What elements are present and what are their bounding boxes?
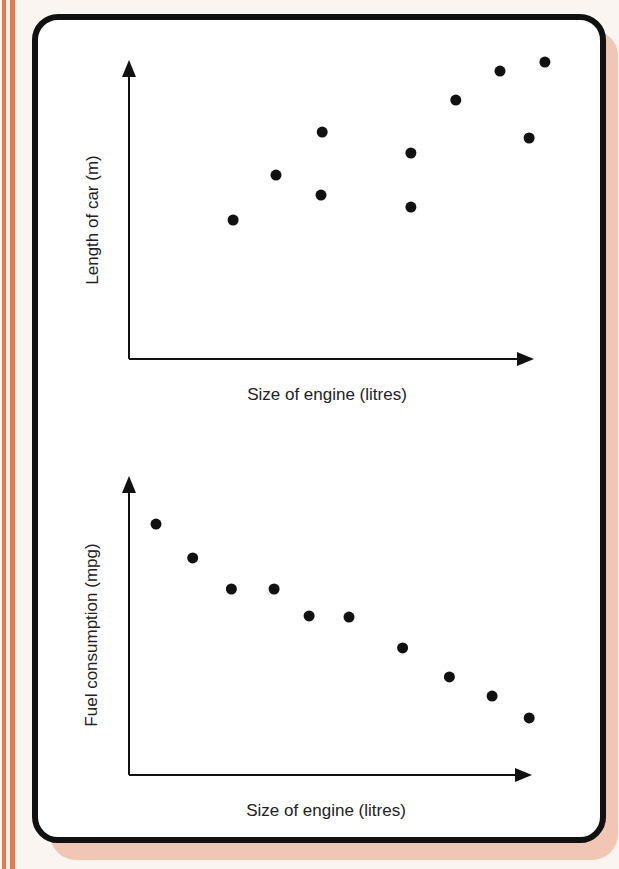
y-axis-label: Length of car (m): [83, 155, 102, 284]
data-point: [269, 584, 280, 595]
x-axis-label: Size of engine (litres): [246, 801, 406, 820]
data-points: [228, 57, 551, 226]
plot-axes: [122, 60, 534, 366]
y-axis-arrow-icon: [122, 476, 136, 493]
y-axis-label: Fuel consumption (mpg): [82, 543, 101, 726]
data-point: [317, 127, 328, 138]
data-point: [524, 712, 535, 723]
scatter-plot-length-vs-engine: Size of engine (litres) Length of car (m…: [83, 57, 550, 404]
data-point: [450, 95, 461, 106]
data-point: [524, 133, 535, 144]
data-point: [226, 584, 237, 595]
x-axis-arrow-icon: [515, 768, 532, 782]
y-axis-arrow-icon: [122, 60, 136, 77]
data-point: [271, 170, 282, 181]
data-point: [487, 691, 498, 702]
scatter-plots: Size of engine (litres) Length of car (m…: [0, 0, 619, 869]
data-point: [539, 57, 550, 68]
data-point: [151, 519, 162, 530]
data-point: [304, 610, 315, 621]
data-point: [444, 671, 455, 682]
data-point: [187, 552, 198, 563]
data-point: [316, 190, 327, 201]
data-point: [228, 215, 239, 226]
data-points: [151, 519, 535, 724]
plot-axes: [122, 476, 532, 782]
x-axis-label: Size of engine (litres): [247, 385, 407, 404]
data-point: [495, 66, 506, 77]
data-point: [405, 202, 416, 213]
scatter-plot-fuel-vs-engine: Size of engine (litres) Fuel consumption…: [82, 476, 535, 820]
x-axis-arrow-icon: [517, 352, 534, 366]
data-point: [405, 148, 416, 159]
data-point: [344, 612, 355, 623]
data-point: [397, 642, 408, 653]
